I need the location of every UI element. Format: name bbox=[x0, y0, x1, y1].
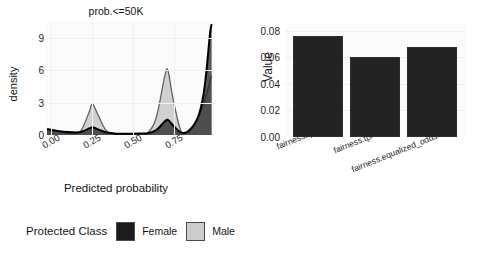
density-y-tick-6: 6 bbox=[22, 65, 44, 76]
density-series-male bbox=[47, 69, 212, 135]
density-y-axis-label: density bbox=[7, 54, 19, 114]
bar-y-tick-004: 0.04 bbox=[250, 79, 280, 90]
density-y-tick-9: 9 bbox=[22, 33, 44, 44]
legend-item-male[interactable]: Male bbox=[186, 222, 235, 241]
bar-y-tick-008: 0.08 bbox=[250, 26, 280, 37]
density-plot-panel: prob.<=50K density 0 3 6 9 0.00 0.25 0.5… bbox=[0, 0, 232, 210]
legend-item-female[interactable]: Female bbox=[116, 222, 177, 241]
gridline-h-9 bbox=[47, 38, 215, 39]
bar-chart-panel: Value 0.00 0.02 0.04 0.06 0.08 fairness.… bbox=[232, 0, 480, 210]
density-area-male bbox=[47, 69, 212, 135]
bar-y-tick-002: 0.02 bbox=[250, 105, 280, 116]
legend-title: Protected Class bbox=[26, 225, 107, 237]
gridline-v-025 bbox=[92, 22, 93, 135]
bar-fairness-equalized-odds[interactable] bbox=[407, 47, 457, 137]
figure-canvas: prob.<=50K density 0 3 6 9 0.00 0.25 0.5… bbox=[0, 0, 480, 256]
density-area-female bbox=[47, 24, 212, 135]
gridline-h-3 bbox=[47, 103, 215, 104]
density-line-male bbox=[47, 69, 212, 135]
gridline-h-6 bbox=[47, 70, 215, 71]
bar-y-tick-006: 0.06 bbox=[250, 52, 280, 63]
density-line-female bbox=[47, 24, 212, 134]
gridline-v-000 bbox=[51, 22, 52, 135]
legend-swatch-female bbox=[116, 222, 135, 241]
density-y-tick-0: 0 bbox=[22, 130, 44, 141]
density-plot-area bbox=[47, 22, 215, 135]
legend: Protected Class Female Male bbox=[26, 219, 235, 243]
density-plot-title: prob.<=50K bbox=[89, 5, 144, 17]
density-series-female bbox=[47, 24, 212, 135]
gridline-v-075 bbox=[174, 22, 175, 135]
bar-plot-area bbox=[285, 24, 466, 137]
gridline-v-050 bbox=[133, 22, 134, 135]
bar-fairness-fpr[interactable] bbox=[293, 36, 343, 137]
bar-gridline-008 bbox=[285, 31, 466, 32]
legend-label-female: Female bbox=[142, 225, 177, 237]
legend-swatch-male bbox=[186, 222, 205, 241]
bar-fairness-tpr[interactable] bbox=[350, 57, 400, 137]
density-x-axis-label: Predicted probability bbox=[64, 182, 168, 194]
density-y-tick-3: 3 bbox=[22, 98, 44, 109]
legend-label-male: Male bbox=[212, 225, 235, 237]
